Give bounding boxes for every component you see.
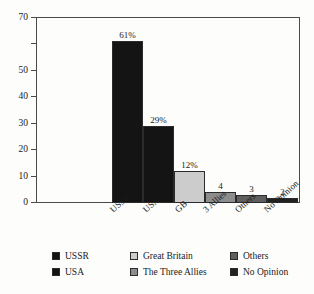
legend-swatch-great-britain <box>130 252 138 260</box>
bar-value-ussr: 61% <box>110 31 145 40</box>
y-tick-label-10: 10 <box>19 172 29 182</box>
bar-value-usa: 29% <box>141 116 176 125</box>
y-axis: 70 50 40 30 20 10 0 <box>0 10 34 210</box>
y-tick-label-70: 70 <box>19 13 29 23</box>
y-tick-label-40: 40 <box>19 92 29 102</box>
y-tick-label-50: 50 <box>19 66 29 76</box>
legend-entry-others: Others <box>230 251 308 261</box>
legend-swatch-others <box>230 252 238 260</box>
legend-entry-ussr: USSR <box>52 251 130 261</box>
legend-entry-usa: USA <box>52 267 130 277</box>
y-tick-label-0: 0 <box>23 198 28 208</box>
legend-label-others: Others <box>243 251 268 261</box>
legend-entry-great-britain: Great Britain <box>130 251 230 261</box>
bar-ussr <box>112 41 143 203</box>
bar-gb <box>174 171 205 203</box>
legend-swatch-usa <box>52 268 60 276</box>
legend-label-usa: USA <box>65 267 84 277</box>
legend-entry-no-opinion: No Opinion <box>230 267 308 277</box>
x-axis: USSR USA GB 3 Allies Others No Opinion <box>36 204 300 250</box>
legend-swatch-three-allies <box>130 268 138 276</box>
chart-legend: USSR Great Britain Others USA The Three … <box>52 248 282 280</box>
legend-label-no-opinion: No Opinion <box>243 267 288 277</box>
legend-entry-three-allies: The Three Allies <box>130 267 230 277</box>
legend-swatch-no-opinion <box>230 268 238 276</box>
legend-swatch-ussr <box>52 252 60 260</box>
legend-label-great-britain: Great Britain <box>143 251 193 261</box>
y-tick-label-30: 30 <box>19 119 29 129</box>
bar-usa <box>143 126 174 203</box>
bar-value-gb: 12% <box>172 161 207 170</box>
bars-layer: 61% 29% 12% 4 3 2 <box>36 17 300 203</box>
y-tick-label-20: 20 <box>19 145 29 155</box>
bar-chart-figure: 70 50 40 30 20 10 0 61% 29% 12% 4 3 2 <box>0 0 314 294</box>
legend-label-three-allies: The Three Allies <box>143 267 207 277</box>
legend-label-ussr: USSR <box>65 251 89 261</box>
